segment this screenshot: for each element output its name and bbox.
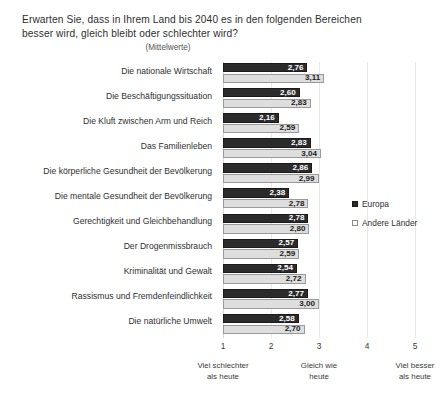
bar-value-label: 2,83 — [291, 139, 307, 147]
bar-value-label: 2,60 — [280, 89, 296, 97]
legend-item-europa[interactable]: Europa — [352, 199, 442, 209]
x-tick-label: 4 — [365, 341, 370, 351]
category-label: Die natürliche Umwelt — [8, 317, 212, 326]
bar-value-label: 3,11 — [305, 74, 320, 82]
x-tick-label: 3 — [317, 341, 322, 351]
bar-europa: 2,38 — [223, 188, 289, 197]
chart-title: Erwarten Sie, dass in Ihrem Land bis 204… — [22, 13, 372, 40]
legend-swatch-icon — [352, 201, 358, 207]
bar-value-label: 3,04 — [301, 150, 317, 158]
x-axis-caption: Viel besserals heute — [396, 360, 435, 382]
category-label: Rassismus und Fremdenfeindlichkeit — [8, 292, 212, 301]
bar-row: 2,862,99 — [223, 162, 415, 187]
bar-europa: 2,77 — [223, 289, 308, 298]
bar-europa: 2,78 — [223, 214, 308, 223]
bar-row: 2,602,83 — [223, 87, 415, 112]
bar-value-label: 2,76 — [288, 64, 304, 72]
bar-value-label: 2,83 — [291, 99, 307, 107]
x-axis-captions: Viel schlechterals heuteGleich wieheuteV… — [180, 360, 444, 394]
bar-row: 2,833,04 — [223, 137, 415, 162]
chart-subtitle: (Mittelwerte) — [52, 43, 284, 52]
bar-row: 2,572,59 — [223, 238, 415, 263]
category-label: Kriminalität und Gewalt — [8, 267, 212, 276]
bar-andere-laender: 2,99 — [223, 174, 319, 183]
category-label: Die Beschäftigungssituation — [8, 92, 212, 101]
x-axis-caption-line: Viel besser — [396, 360, 435, 371]
bar-europa: 2,60 — [223, 88, 300, 97]
bar-europa: 2,76 — [223, 63, 307, 72]
bar-andere-laender: 2,59 — [223, 249, 299, 258]
legend-swatch-icon — [352, 220, 358, 226]
bar-value-label: 2,59 — [280, 250, 296, 258]
x-axis-caption: Viel schlechterals heute — [197, 360, 248, 382]
bar-value-label: 2,78 — [289, 200, 305, 208]
bar-value-label: 3,00 — [299, 300, 315, 308]
x-axis-caption: Gleich wieheute — [301, 360, 337, 382]
bar-value-label: 2,77 — [288, 289, 304, 297]
bar-value-label: 2,54 — [277, 264, 293, 272]
bar-row: 2,542,72 — [223, 263, 415, 288]
bar-europa: 2,83 — [223, 138, 311, 147]
bar-europa: 2,58 — [223, 314, 299, 323]
x-axis-caption-line: Viel schlechter — [197, 360, 248, 371]
bar-europa: 2,54 — [223, 264, 297, 273]
bar-value-label: 2,86 — [293, 164, 309, 172]
bar-andere-laender: 2,59 — [223, 124, 299, 133]
bar-value-label: 2,70 — [285, 325, 301, 333]
legend-label: Europa — [362, 199, 389, 209]
category-label: Die körperliche Gesundheit der Bevölkeru… — [8, 167, 212, 176]
bar-europa: 2,86 — [223, 163, 312, 172]
bar-andere-laender: 2,72 — [223, 274, 306, 283]
bar-andere-laender: 3,00 — [223, 299, 319, 308]
x-axis-caption-line: Gleich wie — [301, 360, 337, 371]
bar-row: 2,773,00 — [223, 288, 415, 313]
category-label: Die nationale Wirtschaft — [8, 67, 212, 76]
bar-row: 2,162,59 — [223, 112, 415, 137]
bar-value-label: 2,16 — [259, 114, 275, 122]
x-tick-label: 2 — [269, 341, 274, 351]
x-axis-ticks: 12345 — [223, 341, 415, 355]
chart-legend: EuropaAndere Länder — [352, 199, 442, 237]
legend-item-andere-laender[interactable]: Andere Länder — [352, 218, 442, 228]
bar-row: 2,582,70 — [223, 313, 415, 338]
chart-container: Erwarten Sie, dass in Ihrem Land bis 204… — [0, 0, 444, 399]
x-axis-caption-line: heute — [301, 371, 337, 382]
category-label: Gerechtigkeit und Gleichbehandlung — [8, 217, 212, 226]
x-tick-label: 5 — [413, 341, 418, 351]
bar-andere-laender: 2,78 — [223, 199, 308, 208]
bar-row: 2,763,11 — [223, 62, 415, 87]
category-label: Die Kluft zwischen Arm und Reich — [8, 117, 212, 126]
category-label: Der Drogenmissbrauch — [8, 242, 212, 251]
bar-andere-laender: 3,04 — [223, 149, 321, 158]
x-axis-caption-line: als heute — [197, 371, 248, 382]
bar-andere-laender: 2,80 — [223, 224, 309, 233]
category-axis-labels: Die nationale WirtschaftDie Beschäftigun… — [8, 62, 218, 338]
bar-value-label: 2,99 — [299, 175, 315, 183]
bar-andere-laender: 3,11 — [223, 74, 324, 83]
bar-andere-laender: 2,70 — [223, 325, 305, 334]
bar-value-label: 2,78 — [289, 214, 305, 222]
x-axis-caption-line: als heute — [396, 371, 435, 382]
legend-label: Andere Länder — [362, 218, 417, 228]
category-label: Das Familienleben — [8, 142, 212, 151]
bar-value-label: 2,58 — [279, 315, 295, 323]
category-label: Die mentale Gesundheit der Bevölkerung — [8, 192, 212, 201]
bar-value-label: 2,80 — [290, 225, 306, 233]
chart-title-block: Erwarten Sie, dass in Ihrem Land bis 204… — [22, 13, 372, 52]
bar-value-label: 2,57 — [279, 239, 295, 247]
bar-europa: 2,57 — [223, 239, 298, 248]
bar-value-label: 2,38 — [269, 189, 285, 197]
bar-andere-laender: 2,83 — [223, 99, 311, 108]
x-tick-label: 1 — [221, 341, 226, 351]
bar-value-label: 2,59 — [280, 124, 296, 132]
bar-europa: 2,16 — [223, 113, 279, 122]
bar-value-label: 2,72 — [286, 275, 302, 283]
